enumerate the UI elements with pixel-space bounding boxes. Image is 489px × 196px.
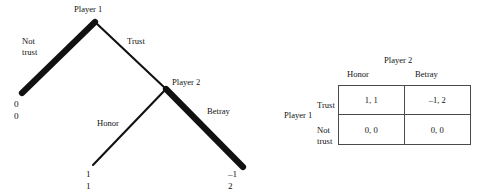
matrix-cell-trust-honor: 1, 1 xyxy=(339,86,405,115)
matrix-row-header-not-trust-line2: trust xyxy=(317,136,332,147)
tree-edge-label-betray: Betray xyxy=(207,106,230,117)
edge-betray xyxy=(166,89,243,167)
payoff-not-trust-p1: 0 xyxy=(14,98,19,110)
matrix-row-header-not-trust-line1: Not xyxy=(317,125,332,136)
matrix-cell-trust-betray: –1, 2 xyxy=(405,86,471,115)
matrix-row-header-not-trust: Not trust xyxy=(317,125,332,147)
tree-payoff-trust-betray: –1 2 xyxy=(228,168,237,192)
matrix-grid: 1, 1 –1, 2 0, 0 0, 0 xyxy=(338,85,471,145)
matrix-row-player-label: Player 1 xyxy=(284,110,312,121)
matrix-cell-nottrust-honor: 0, 0 xyxy=(339,115,405,144)
matrix-column-player-label: Player 2 xyxy=(384,55,412,66)
normal-form-matrix: Player 2 Honor Betray Player 1 Trust Not… xyxy=(280,0,489,196)
matrix-column-header-honor: Honor xyxy=(347,69,369,80)
payoff-trust-betray-p2: 2 xyxy=(228,180,237,192)
game-theory-figure: Player 1 Not trust Trust Player 2 Honor … xyxy=(0,0,489,196)
tree-edges-svg xyxy=(0,0,280,196)
payoff-trust-honor-p2: 1 xyxy=(86,180,91,192)
edge-label-not-line1: Not xyxy=(22,36,37,47)
payoff-trust-honor-p1: 1 xyxy=(86,168,91,180)
matrix-cell-nottrust-betray: 0, 0 xyxy=(405,115,471,144)
tree-node-player2-label: Player 2 xyxy=(172,77,200,88)
matrix-column-header-betray: Betray xyxy=(415,69,438,80)
edge-label-not-line2: trust xyxy=(22,47,37,58)
tree-edge-label-honor: Honor xyxy=(97,118,119,129)
payoff-not-trust-p2: 0 xyxy=(14,110,19,122)
payoff-trust-betray-p1: –1 xyxy=(228,168,237,180)
tree-node-player1-label: Player 1 xyxy=(74,4,102,15)
edge-trust xyxy=(95,22,166,89)
tree-edge-label-not-trust: Not trust xyxy=(22,36,37,58)
extensive-form-tree: Player 1 Not trust Trust Player 2 Honor … xyxy=(0,0,280,196)
matrix-row-header-trust: Trust xyxy=(317,100,335,111)
tree-payoff-not-trust: 0 0 xyxy=(14,98,19,122)
tree-payoff-trust-honor: 1 1 xyxy=(86,168,91,192)
tree-edge-label-trust: Trust xyxy=(127,36,145,47)
